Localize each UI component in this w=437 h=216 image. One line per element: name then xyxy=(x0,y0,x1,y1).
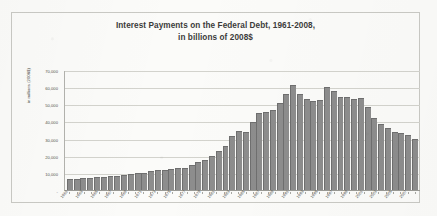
x-axis-tick: 1963 xyxy=(80,192,87,216)
bar xyxy=(195,162,201,190)
x-axis-tick: 1967 xyxy=(110,192,117,216)
chart-title-line-2: in billions of 2008$ xyxy=(12,32,419,44)
bar xyxy=(168,169,174,190)
x-axis-tick: 1997 xyxy=(330,192,337,216)
x-tick-mark xyxy=(113,192,114,194)
x-axis-tick: 1989 xyxy=(272,192,279,216)
x-axis-tick: 1981 xyxy=(213,192,220,216)
x-tick-mark xyxy=(319,192,320,194)
bar xyxy=(283,94,289,190)
bar xyxy=(405,135,411,190)
bar xyxy=(358,98,364,190)
y-axis-tick-label: 50,000 xyxy=(45,103,58,108)
bar-series xyxy=(65,71,420,190)
x-tick-mark xyxy=(216,192,217,194)
x-tick-mark xyxy=(128,192,129,194)
x-tick-mark xyxy=(378,192,379,194)
bar xyxy=(392,132,398,190)
x-axis-tick: 1979 xyxy=(198,192,205,216)
x-tick-mark xyxy=(334,192,335,194)
x-tick-mark xyxy=(415,192,416,194)
y-axis-tick-label: 40,000 xyxy=(45,120,58,125)
bar xyxy=(121,175,127,190)
x-tick-mark xyxy=(202,192,203,194)
bar xyxy=(128,174,134,190)
chart-title-line-1: Interest Payments on the Federal Debt, 1… xyxy=(12,20,419,32)
x-tick-mark xyxy=(187,192,188,194)
x-tick-mark xyxy=(290,192,291,194)
y-axis-tick-label: 30,000 xyxy=(45,137,58,142)
x-tick-mark xyxy=(393,192,394,194)
bar xyxy=(189,165,195,190)
bar xyxy=(175,168,181,190)
x-axis-tick: 1993 xyxy=(301,192,308,216)
bar xyxy=(378,124,384,190)
bar xyxy=(290,85,296,190)
x-tick-mark xyxy=(143,192,144,194)
x-axis-tick: 1973 xyxy=(154,192,161,216)
x-axis-tick: 1969 xyxy=(124,192,131,216)
bar xyxy=(141,173,147,190)
bar xyxy=(101,177,107,190)
y-axis-tick-label: - xyxy=(57,189,58,194)
bar xyxy=(385,128,391,190)
x-tick-mark xyxy=(99,192,100,194)
y-axis-tick-label: 60,000 xyxy=(45,86,58,91)
x-tick-mark xyxy=(349,192,350,194)
bar xyxy=(304,99,310,190)
x-tick-mark xyxy=(157,192,158,194)
chart-title: Interest Payments on the Federal Debt, 1… xyxy=(12,20,419,43)
bar xyxy=(229,136,235,190)
bar xyxy=(256,113,262,190)
bar xyxy=(371,118,377,190)
chart-frame: Interest Payments on the Federal Debt, 1… xyxy=(11,12,420,203)
x-axis-tick: 1971 xyxy=(139,192,146,216)
bar xyxy=(412,139,418,190)
x-tick-mark xyxy=(69,192,70,194)
bar xyxy=(250,122,256,190)
x-axis-tick: 1987 xyxy=(257,192,264,216)
bar xyxy=(398,133,404,190)
bar xyxy=(297,94,303,190)
bar xyxy=(270,110,276,190)
bar xyxy=(209,156,215,190)
x-axis-tick: 2007 xyxy=(404,192,411,216)
bar xyxy=(216,151,222,190)
bar xyxy=(67,179,73,190)
x-axis-tick: 1965 xyxy=(95,192,102,216)
bar xyxy=(338,97,344,190)
x-tick-mark xyxy=(231,192,232,194)
bar xyxy=(162,170,168,190)
x-tick-mark xyxy=(246,192,247,194)
x-tick-mark xyxy=(408,192,409,194)
x-axis-tick: 1975 xyxy=(169,192,176,216)
x-axis-tick: 2005 xyxy=(389,192,396,216)
x-axis-tick-labels: 1961196319651967196919711973197519771979… xyxy=(64,192,420,216)
y-axis-tick-labels: 70,00060,00050,00040,00030,00020,00010,0… xyxy=(12,71,62,191)
x-axis-tick: 1983 xyxy=(227,192,234,216)
y-axis-tick-label: 20,000 xyxy=(45,154,58,159)
bar xyxy=(317,100,323,190)
x-tick-mark xyxy=(305,192,306,194)
bar xyxy=(202,160,208,190)
x-tick-mark xyxy=(84,192,85,194)
bar xyxy=(365,107,371,190)
x-axis-tick: 2003 xyxy=(375,192,382,216)
bar xyxy=(155,170,161,190)
bar xyxy=(344,97,350,190)
bar xyxy=(80,178,86,190)
x-tick-mark xyxy=(172,192,173,194)
x-axis-tick: 1999 xyxy=(345,192,352,216)
y-axis-tick-label: 10,000 xyxy=(45,171,58,176)
bar xyxy=(263,112,269,190)
x-axis-tick: 1985 xyxy=(242,192,249,216)
x-axis-tick: 1977 xyxy=(183,192,190,216)
x-axis-tick: 1995 xyxy=(316,192,323,216)
x-axis-tick: 1991 xyxy=(286,192,293,216)
bar xyxy=(351,99,357,190)
plot-area xyxy=(64,71,420,191)
bar xyxy=(243,132,249,190)
x-axis-tick: 1961 xyxy=(66,192,73,216)
bar xyxy=(87,178,93,190)
bar xyxy=(223,146,229,190)
